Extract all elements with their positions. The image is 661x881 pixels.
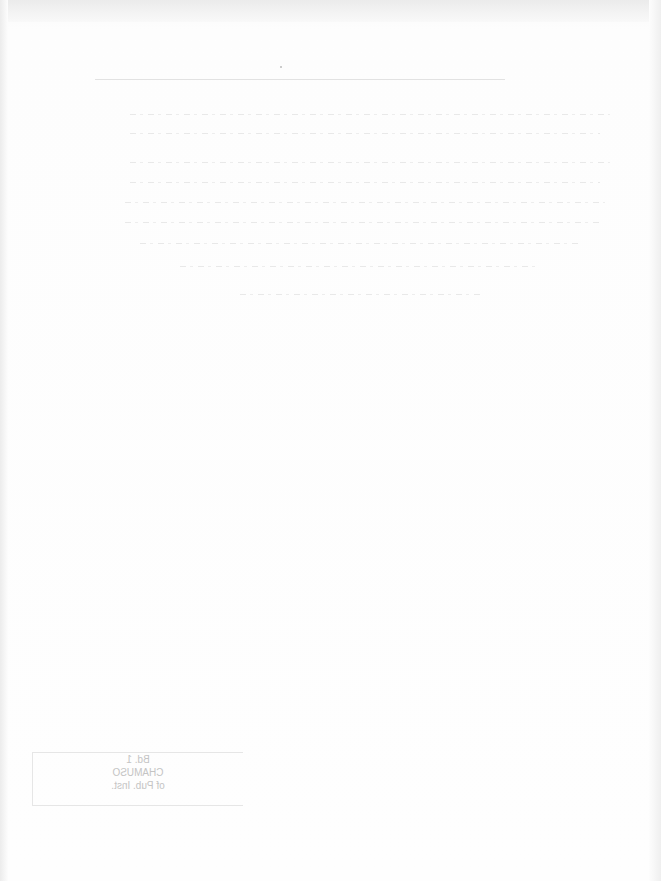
speck	[280, 66, 282, 68]
stamp-line: CHAMUSO	[33, 766, 243, 779]
stamp-line: of Pub. Inst.	[33, 779, 243, 792]
page-top-edge-shadow	[0, 0, 661, 22]
bleed-through-line	[130, 114, 610, 115]
bleed-through-line	[140, 243, 580, 244]
bleed-through-line	[125, 222, 600, 223]
bleed-through-line	[180, 266, 540, 267]
bleed-through-line	[125, 202, 605, 203]
bleed-through-line	[240, 294, 480, 295]
bleed-through-line	[130, 133, 600, 134]
library-stamp-mirrored: Bd. 1 CHAMUSO of Pub. Inst.	[32, 752, 243, 806]
stamp-line: Bd. 1	[33, 753, 243, 766]
page-left-edge-shadow	[0, 0, 8, 881]
scanned-page: Bd. 1 CHAMUSO of Pub. Inst.	[0, 0, 661, 881]
bleed-through-rule	[95, 79, 505, 80]
page-right-edge-shadow	[649, 0, 661, 881]
bleed-through-line	[130, 162, 610, 163]
bleed-through-line	[130, 182, 600, 183]
